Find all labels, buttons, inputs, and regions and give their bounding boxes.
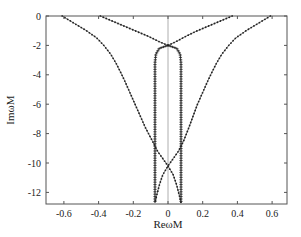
x-tick-label: 0.4: [231, 208, 244, 219]
x-axis-label: ReωM: [153, 218, 182, 230]
y-tick-label: -8: [33, 128, 41, 139]
x-tick-label: -0.2: [125, 208, 141, 219]
series-upper-right-branch: [167, 15, 233, 46]
y-tick-label: -6: [33, 99, 41, 110]
series-upper-left-branch: [99, 15, 168, 46]
x-tick-label: -0.6: [56, 208, 72, 219]
x-tick-label: 0.6: [266, 208, 279, 219]
x-tick-label: 0.2: [196, 208, 209, 219]
series-layer: [61, 15, 271, 203]
plot-frame: [46, 16, 287, 204]
chart: -0.6-0.4-0.200.20.40.6 0-2-4-6-8-10-12 R…: [0, 0, 301, 237]
y-tick-label: -12: [28, 187, 41, 198]
y-tick-label: 0: [36, 11, 41, 22]
y-tick-label: -2: [33, 40, 41, 51]
y-axis-label: ImωM: [4, 95, 16, 124]
y-tick-label: -10: [28, 158, 41, 169]
y-axis-ticks: 0-2-4-6-8-10-12: [28, 11, 287, 198]
x-tick-label: -0.4: [91, 208, 107, 219]
y-tick-label: -4: [33, 69, 41, 80]
